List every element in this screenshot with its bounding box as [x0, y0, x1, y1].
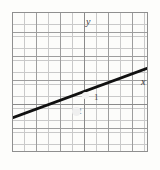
figure-screenshot: y x 1 -2 — [0, 0, 160, 170]
y-tick-label-neg-2: -2 — [74, 107, 82, 116]
x-axis-label: x — [141, 77, 145, 87]
plotted-line-svg — [12, 12, 148, 152]
x-tick-label-1: 1 — [94, 93, 99, 102]
plot-area — [12, 12, 148, 152]
y-axis-label: y — [86, 17, 90, 27]
